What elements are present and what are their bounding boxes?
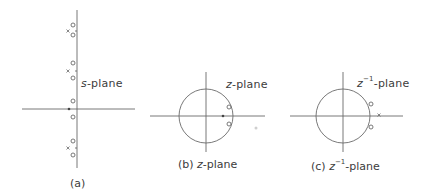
zinv-plane-label: z−1-plane [357,75,409,90]
s-plane-real-pole [68,108,71,111]
caption-suffix: -plane [345,160,380,173]
zinv-plane-zero [369,125,373,129]
plane-suffix: -plane [87,77,123,90]
s-plane-poles [67,30,70,150]
plane-suffix: -plane [232,78,268,91]
smudge-mark [255,127,258,130]
z-plane-zero [227,122,231,126]
caption-exponent: −1 [335,158,345,166]
s-plane-label: s-plane [81,77,123,90]
caption-prefix: (c) [311,160,329,173]
z-plane-pole [222,115,225,118]
caption-b: (b) z-plane [178,158,237,171]
caption-suffix: -plane [203,158,238,171]
z-plane-label: z-plane [226,78,268,91]
caption-prefix: (b) [178,158,197,171]
z-plane-zero [227,105,231,109]
caption-a: (a) [70,177,85,190]
caption-c: (c) z−1-plane [311,158,380,173]
s-plane-zeros [71,23,75,157]
plane-exponent: −1 [363,75,374,83]
plane-suffix: -plane [374,77,410,90]
zinv-plane-zero [369,102,373,106]
